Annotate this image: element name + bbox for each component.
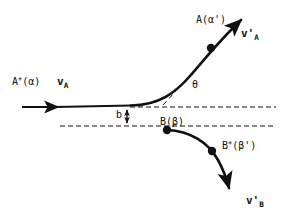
label-particle-a-incoming: A+(α) <box>12 76 40 87</box>
scattering-diagram: A+(α) vA A(α') v'A θ b B(β) B+(β') v'B <box>0 0 281 221</box>
trajectory-a-outgoing <box>131 20 241 106</box>
label-impact-parameter: b <box>116 110 122 120</box>
marker-b-outgoing <box>208 147 216 155</box>
trajectory-a-incoming-tail <box>55 106 131 108</box>
label-velocity-b-outgoing: v'B <box>246 195 264 209</box>
diagram-canvas <box>0 0 281 221</box>
marker-a-outgoing <box>207 44 215 52</box>
label-velocity-a-outgoing: v'A <box>241 28 259 42</box>
label-scattering-angle: θ <box>192 80 198 90</box>
label-particle-b-incoming: B(β) <box>160 117 184 127</box>
label-velocity-a-incoming: vA <box>57 76 68 90</box>
label-particle-b-outgoing: B+(β') <box>222 140 256 151</box>
marker-b-incoming <box>163 126 171 134</box>
trajectory-b-outgoing <box>167 130 229 188</box>
label-particle-a-outgoing: A(α') <box>196 15 226 25</box>
